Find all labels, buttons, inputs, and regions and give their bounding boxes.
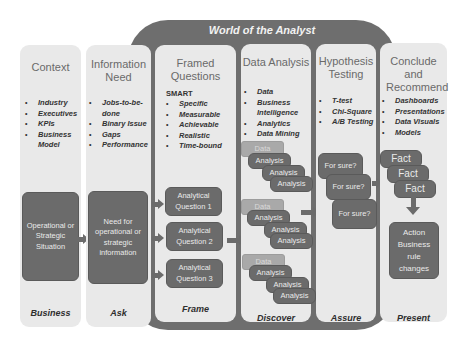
analysis-box: Analysis — [270, 233, 313, 249]
for-sure-box: For sure? — [332, 199, 377, 229]
bullet-item: Business Intelligence — [244, 98, 310, 119]
bullet-list: Jobs-to-be-done Binary Issue Gaps Perfor… — [89, 98, 149, 151]
analytical-question-box: Analytical Question 1 — [165, 187, 222, 216]
column-title: Information Need — [86, 58, 151, 84]
bullet-item: Time-bound — [166, 141, 222, 152]
column-footer: Discover — [241, 313, 311, 323]
bullet-item: T-test — [319, 96, 376, 107]
bullet-item: Jobs-to-be-done — [89, 98, 149, 119]
arrow-right-icon — [152, 271, 164, 279]
column-title: Hypothesis Testing — [316, 55, 376, 81]
bullet-item: Realistic — [166, 131, 222, 142]
bullet-item: Binary Issue — [89, 119, 149, 130]
column-footer: Assure — [316, 313, 376, 323]
need-box: Need for operational or strategic inform… — [88, 191, 148, 284]
column-title: Context — [20, 61, 81, 74]
bullet-item: Performance — [89, 140, 149, 151]
bullet-item: Dashboards — [382, 96, 448, 107]
world-title: World of the Analyst — [128, 24, 396, 36]
column-title: Framed Questions — [155, 57, 236, 83]
bullet-item: Presentations — [382, 107, 448, 118]
bullet-item: Achievable — [166, 120, 222, 131]
bullet-item: Data — [244, 87, 310, 98]
column-footer: Present — [380, 313, 447, 323]
arrow-down-icon — [406, 197, 420, 215]
bullet-item: Data Mining — [244, 129, 310, 140]
analytical-question-box: Analytical Question 2 — [166, 222, 223, 251]
bullet-item: Industry — [25, 98, 81, 109]
column-framed-questions: Framed Questions SMART Specific Measurab… — [155, 45, 236, 322]
column-title: Conclude and Recommend — [380, 55, 447, 94]
for-sure-box: For sure? — [326, 174, 371, 200]
bullet-list: Specific Measurable Achievable Realistic… — [166, 99, 222, 152]
bullet-list: Industry Executives KPIs Business Model — [25, 98, 81, 151]
column-title: Data Analysis — [241, 56, 311, 69]
bullet-item: Data Visuals — [382, 117, 448, 128]
arrow-right-icon — [152, 234, 164, 242]
column-information-need: Information Need Jobs-to-be-done Binary … — [86, 45, 151, 327]
arrow-right-icon — [152, 200, 164, 208]
smart-label: SMART — [166, 89, 193, 98]
bullet-item: Business Model — [25, 130, 81, 151]
analysis-box: Analysis — [270, 176, 313, 192]
action-box: Action Business rule changes — [389, 222, 439, 279]
bullet-list: Dashboards Presentations Data Visuals Mo… — [382, 96, 448, 138]
analytical-question-box: Analytical Question 3 — [166, 259, 223, 288]
bullet-item: A/B Testing — [319, 117, 376, 128]
bullet-item: Chi-Square — [319, 107, 376, 118]
bullet-list: T-test Chi-Square A/B Testing — [319, 96, 376, 128]
bullet-list: Data Business Intelligence Analytics Dat… — [244, 87, 310, 140]
bullet-item: Analytics — [244, 119, 310, 130]
bullet-item: Specific — [166, 99, 222, 110]
column-footer: Frame — [155, 304, 236, 314]
bullet-item: Models — [382, 128, 448, 139]
situation-box: Operational or Strategic Situation — [22, 192, 79, 281]
column-footer: Ask — [86, 308, 151, 318]
analysis-box: Analysis — [273, 288, 316, 304]
column-footer: Business — [20, 308, 81, 318]
fact-box: Fact — [394, 180, 436, 198]
column-context: Context Industry Executives KPIs Busines… — [20, 45, 81, 327]
bullet-item: KPIs — [25, 119, 81, 130]
bullet-item: Measurable — [166, 110, 222, 121]
bullet-item: Gaps — [89, 130, 149, 141]
bullet-item: Executives — [25, 109, 81, 120]
